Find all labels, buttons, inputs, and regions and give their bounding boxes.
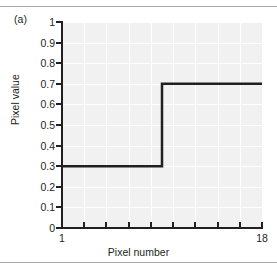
y-axis-tick-label: 0 [49,222,55,234]
y-axis-tick [56,145,62,147]
y-axis-tick [56,21,62,23]
y-axis-tick [56,124,62,126]
plot-area [62,22,262,228]
x-axis-tick [194,222,196,228]
y-axis-tick [56,83,62,85]
gridline-horizontal [62,22,262,23]
x-axis-title: Pixel number [0,246,277,258]
gridline-horizontal [62,84,262,85]
gridline-horizontal [62,63,262,64]
x-axis-tick [105,222,107,228]
y-axis-tick [56,62,62,64]
y-axis-tick-label: 0.9 [40,37,55,49]
gridline-horizontal [62,146,262,147]
y-axis-tick [56,165,62,167]
x-axis-tick [172,222,174,228]
x-axis-tick [239,222,241,228]
y-axis-tick-label: 0.4 [40,140,55,152]
gridline-horizontal [62,207,262,208]
x-axis-tick [61,222,63,228]
y-axis-tick-label: 0.7 [40,78,55,90]
y-axis-tick-label: 0.1 [40,201,55,213]
y-axis-title: Pixel value [9,74,21,125]
y-axis-tick-label: 0.3 [40,160,55,172]
gridline-horizontal [62,125,262,126]
y-axis-tick [56,42,62,44]
x-axis-line [61,227,263,229]
y-axis-tick [56,206,62,208]
y-axis-tick [56,103,62,105]
y-axis-tick-label: 0.8 [40,57,55,69]
y-axis-tick-label: 0.5 [40,119,55,131]
gridline-horizontal [62,166,262,167]
gridline-horizontal [62,43,262,44]
plot-wrapper: Pixel value Pixel number 00.10.20.30.40.… [0,0,277,270]
gridline-horizontal [62,104,262,105]
x-axis-tick-label: 1 [59,232,65,244]
x-axis-tick-label: 18 [256,232,268,244]
figure-panel: (a) Pixel value Pixel number 00.10.20.30… [0,0,277,270]
y-axis-tick-label: 1 [49,16,55,28]
x-axis-tick [83,222,85,228]
y-axis-tick [56,186,62,188]
gridline-horizontal [62,187,262,188]
y-axis-tick-label: 0.2 [40,181,55,193]
x-axis-tick [217,222,219,228]
x-axis-tick [128,222,130,228]
x-axis-tick [261,222,263,228]
y-axis-tick-label: 0.6 [40,98,55,110]
x-axis-tick [150,222,152,228]
